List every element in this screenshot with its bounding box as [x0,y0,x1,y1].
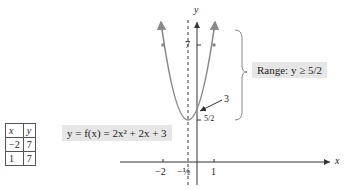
range-brace [235,30,247,120]
x-tick-1: 1 [211,166,216,177]
table-row: 1 7 [6,152,36,166]
y-tick-7: 7 [185,39,190,50]
table-row: −2 7 [6,138,36,152]
function-equation: y = f(x) = 2x² + 2x + 3 [62,125,172,141]
values-table: x y −2 7 1 7 [5,123,36,166]
x-axis-label: x [335,155,339,166]
y-tick-5-2: 5/2 [204,114,214,123]
parabola-diagram: x y −2 7 1 7 y = f(x) = 2x² + 2x + 3 Ran… [0,0,348,190]
table-header-y: y [23,124,35,138]
x-tick-neg-half: −½ [177,166,190,177]
y-axis-label: y [194,4,198,15]
graph-canvas [0,0,348,190]
x-tick-neg2: −2 [155,166,166,177]
table-header-x: x [6,124,24,138]
intercept-pointer [200,100,222,111]
range-label: Range: y ≥ 5/2 [252,62,327,78]
intercept-label: 3 [224,93,229,104]
